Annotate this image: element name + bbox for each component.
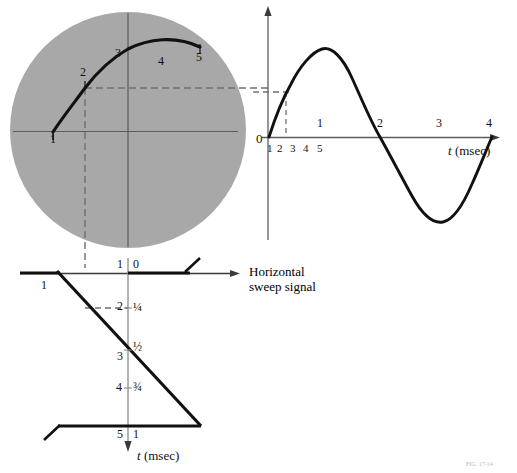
waveform-tick-label-4: 4: [486, 117, 492, 129]
horizontal-sweep-signal-label: Horizontal sweep signal: [249, 264, 316, 294]
waveform-axis-var: t: [448, 143, 452, 158]
waveform-origin-label: 0: [256, 132, 263, 145]
sweep-ramp-start-label: 1: [41, 279, 47, 291]
sweep-retrace-stub-bottom: [44, 425, 60, 440]
sweep-right-tick-threequarter: ¾: [133, 381, 142, 393]
sweep-ramp-line: [57, 271, 201, 426]
sweep-right-tick-quarter: ¼: [133, 301, 142, 313]
sweep-signal-group: [20, 258, 240, 452]
waveform-minor-tick-4: 4: [303, 143, 309, 154]
sweep-axis-label: t (msec): [137, 449, 179, 462]
crt-label-point-4: 4: [158, 55, 164, 67]
sweep-left-tick-4: 4: [116, 381, 122, 393]
sweep-axis-var: t: [137, 448, 141, 463]
sweep-signal-line-2: sweep signal: [249, 279, 316, 294]
sweep-left-tick-2: 2: [117, 300, 123, 312]
crt-label-point-1: 1: [50, 133, 56, 145]
crt-label-point-5: 5: [196, 51, 202, 63]
sweep-right-tick-half: ½: [133, 341, 142, 353]
sweep-time-axis-arrowhead: [124, 441, 131, 452]
sweep-bottom-left-label: 5: [117, 428, 123, 440]
waveform-minor-tick-1: 1: [267, 143, 273, 154]
crt-label-point-3: 3: [115, 47, 121, 59]
sweep-top-left-label: 1: [117, 258, 123, 270]
figure-17-14: [0, 0, 517, 473]
sweep-top-right-label: 0: [133, 258, 139, 270]
waveform-tick-label-3: 3: [436, 117, 442, 129]
waveform-y-axis-arrowhead: [264, 6, 271, 16]
waveform-tick-label-2: 2: [377, 117, 383, 129]
waveform-axis-unit: (msec): [455, 143, 490, 158]
sweep-horizontal-axis-arrowhead: [230, 270, 240, 277]
sweep-axis-unit: (msec): [144, 448, 179, 463]
figure-caption: FIG. 17-14: [466, 461, 493, 467]
waveform-axis-label: t (msec): [448, 144, 490, 157]
waveform-minor-tick-5: 5: [317, 143, 323, 154]
sweep-signal-line-1: Horizontal: [249, 264, 316, 279]
waveform-tick-label-1: 1: [317, 117, 323, 129]
sweep-left-tick-3: 3: [117, 350, 123, 362]
crt-screen-group: [10, 12, 268, 268]
waveform-sine-trace: [269, 49, 492, 223]
waveform-minor-tick-2: 2: [277, 143, 283, 154]
sweep-bottom-right-label: 1: [133, 428, 139, 440]
crt-label-point-2: 2: [80, 66, 86, 78]
sweep-retrace-stub-top: [185, 258, 200, 272]
waveform-minor-tick-3: 3: [290, 143, 296, 154]
